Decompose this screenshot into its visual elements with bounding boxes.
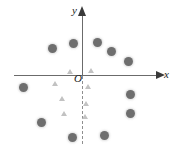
- data-point-circle: [68, 133, 77, 142]
- data-point-triangle: [82, 114, 88, 119]
- data-point-circle: [48, 44, 57, 53]
- scatter-plot-figure: x y O: [0, 0, 179, 160]
- data-point-circle: [126, 109, 135, 118]
- data-point-triangle: [83, 101, 89, 106]
- y-axis-arrowhead-icon: [78, 6, 86, 16]
- data-point-circle: [69, 39, 78, 48]
- x-axis-label: x: [164, 69, 169, 80]
- data-point-triangle: [85, 84, 91, 89]
- data-point-circle: [107, 47, 116, 56]
- y-axis-label: y: [72, 5, 77, 16]
- data-point-circle: [93, 38, 102, 47]
- data-point-triangle: [52, 81, 58, 86]
- x-axis-line: [14, 75, 159, 76]
- data-point-circle: [37, 118, 46, 127]
- data-point-circle: [124, 57, 133, 66]
- data-point-triangle: [61, 111, 67, 116]
- data-point-triangle: [67, 69, 73, 74]
- origin-label: O: [74, 73, 82, 84]
- data-point-triangle: [59, 96, 65, 101]
- y-axis-line-negative-dashed: [82, 76, 83, 144]
- data-point-circle: [100, 131, 109, 140]
- data-point-triangle: [88, 68, 94, 73]
- data-point-circle: [126, 90, 135, 99]
- data-point-circle: [19, 83, 28, 92]
- y-axis-line-positive: [82, 14, 83, 75]
